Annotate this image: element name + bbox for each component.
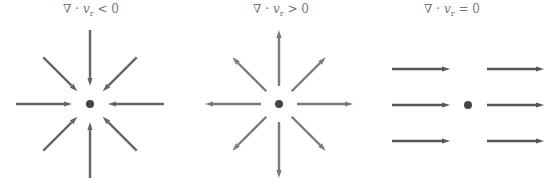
converging-arrow-4 (16, 101, 72, 106)
uniform-arrow-left-2 (392, 138, 450, 143)
arrow-shaft (238, 63, 266, 91)
diverging-arrow-4 (205, 101, 261, 106)
diverging-arrow-6 (276, 30, 281, 86)
arrow-head (276, 170, 281, 178)
converging-arrow-0 (108, 101, 164, 106)
uniform-arrow-right-2 (487, 138, 544, 143)
arrow-head (345, 101, 353, 106)
converging-arrow-1 (103, 117, 137, 151)
converging-arrow-6 (87, 30, 92, 86)
uniform-arrow-right-0 (487, 66, 544, 71)
diverging-arrow-2 (276, 122, 281, 178)
diverging-arrow-5 (232, 57, 266, 91)
diverging-arrow-1 (292, 117, 326, 151)
diverging-arrow-0 (297, 101, 353, 106)
uniform-center-dot (464, 101, 472, 109)
arrow-shaft (292, 63, 320, 91)
arrow-head (536, 138, 544, 143)
diverging-center-dot (275, 100, 283, 108)
arrow-head (205, 101, 213, 106)
uniform-arrow-left-1 (392, 102, 450, 107)
arrow-shaft (238, 117, 266, 145)
arrow-shaft (108, 122, 136, 150)
converging-arrow-5 (43, 57, 77, 91)
converging-arrow-7 (103, 57, 137, 91)
diverging-arrow-7 (292, 57, 326, 91)
arrow-shaft (292, 117, 320, 145)
arrow-shaft (43, 57, 71, 85)
arrow-head (276, 30, 281, 38)
arrow-head (87, 122, 92, 130)
diverging-arrow-3 (232, 117, 266, 151)
arrow-head (536, 102, 544, 107)
converging-center-dot (86, 100, 94, 108)
arrow-head (108, 101, 116, 106)
arrow-head (442, 66, 450, 71)
arrow-head (87, 78, 92, 86)
converging-arrow-2 (87, 122, 92, 178)
arrow-head (536, 66, 544, 71)
arrow-head (442, 138, 450, 143)
arrow-shaft (108, 57, 136, 85)
arrow-shaft (43, 122, 71, 150)
uniform-arrow-left-0 (392, 66, 450, 71)
arrow-head (64, 101, 72, 106)
arrow-head (442, 102, 450, 107)
converging-arrow-3 (43, 117, 77, 151)
uniform-arrow-right-1 (487, 102, 544, 107)
divergence-diagram (0, 0, 560, 186)
